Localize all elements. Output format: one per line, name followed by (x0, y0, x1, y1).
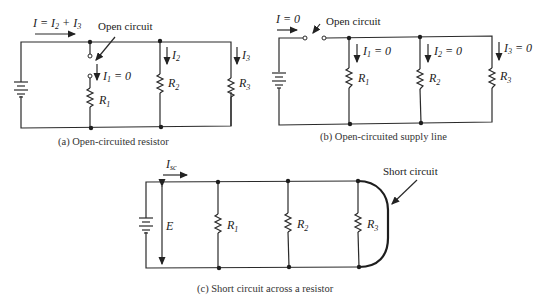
open-circuit-annotation: Open circuit (326, 15, 381, 27)
i2-label: I2 = 0 (433, 44, 462, 59)
wire-bottom-b (279, 88, 492, 125)
r3-label: R3 (238, 76, 250, 92)
open-terminal-right (322, 36, 326, 40)
resistor-r3-icon (228, 78, 234, 97)
annotation-pointer-icon (96, 37, 115, 60)
diagram-b-open-circuited-supply-line: I = 0 Open circuit I1 = 0 I2 = 0 I3 = 0 … (272, 12, 532, 143)
r1-label: R1 (226, 218, 238, 234)
wire-left-b (279, 38, 303, 72)
battery-icon (272, 73, 286, 88)
circuit-figure: I = I2 + I3 Open circuit I1 = 0 I2 I3 R1… (0, 0, 550, 302)
resistor-r3-icon (489, 68, 495, 88)
resistor-r2-icon (285, 213, 291, 232)
open-terminal-left (303, 36, 307, 40)
total-current-label: I = I2 + I3 (32, 16, 81, 31)
short-circuit-current-label: Isc (165, 157, 177, 172)
annotation-pointer-icon (313, 24, 320, 33)
voltage-label: E (165, 219, 174, 233)
resistor-r2-icon (157, 74, 163, 93)
resistor-r2-icon (417, 69, 423, 89)
annotation-pointer-icon (392, 180, 417, 204)
r3-label: R3 (499, 69, 511, 85)
r2-label: R2 (167, 76, 179, 92)
battery-icon (14, 82, 28, 97)
wire-bottom-c (146, 232, 358, 268)
wire-bottom-a (21, 92, 231, 128)
i2-label: I2 (171, 48, 180, 63)
diagram-a-open-circuited-resistor: I = I2 + I3 Open circuit I1 = 0 I2 I3 R1… (14, 16, 250, 148)
i3-label: I3 (241, 48, 250, 63)
r1-label: R1 (357, 71, 369, 87)
wire-top-b (326, 36, 492, 68)
total-current-label: I = 0 (275, 12, 300, 26)
r3-label: R3 (366, 217, 378, 233)
r1-label: R1 (98, 93, 110, 109)
r2-label: R2 (296, 217, 308, 233)
caption-c: (c) Short circuit across a resistor (197, 283, 334, 295)
i3-label: I3 = 0 (503, 41, 532, 56)
resistor-r3-icon (355, 213, 361, 232)
i1-label: I1 = 0 (362, 44, 391, 59)
caption-b: (b) Open-circuited supply line (320, 131, 447, 143)
resistor-r1-icon (215, 214, 221, 233)
caption-a: (a) Open-circuited resistor (58, 136, 169, 148)
wire-top-c (146, 181, 358, 218)
i1-label: I1 = 0 (102, 69, 131, 84)
open-circuit-annotation: Open circuit (98, 20, 153, 32)
battery-icon (139, 218, 153, 233)
diagram-c-short-circuit: Isc E Short circuit R1 R2 R3 (c) Short c… (139, 157, 438, 295)
open-terminal-top (88, 54, 92, 58)
resistor-r1-icon (346, 68, 352, 88)
short-circuit-annotation: Short circuit (383, 165, 438, 177)
r2-label: R2 (428, 71, 440, 87)
resistor-r1-icon (87, 88, 93, 107)
open-terminal-bottom (88, 74, 92, 78)
